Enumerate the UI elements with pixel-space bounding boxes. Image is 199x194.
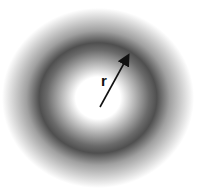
ring-diagram: r — [0, 0, 199, 194]
radius-label: r — [101, 72, 107, 89]
radius-arrow-icon — [0, 0, 199, 194]
